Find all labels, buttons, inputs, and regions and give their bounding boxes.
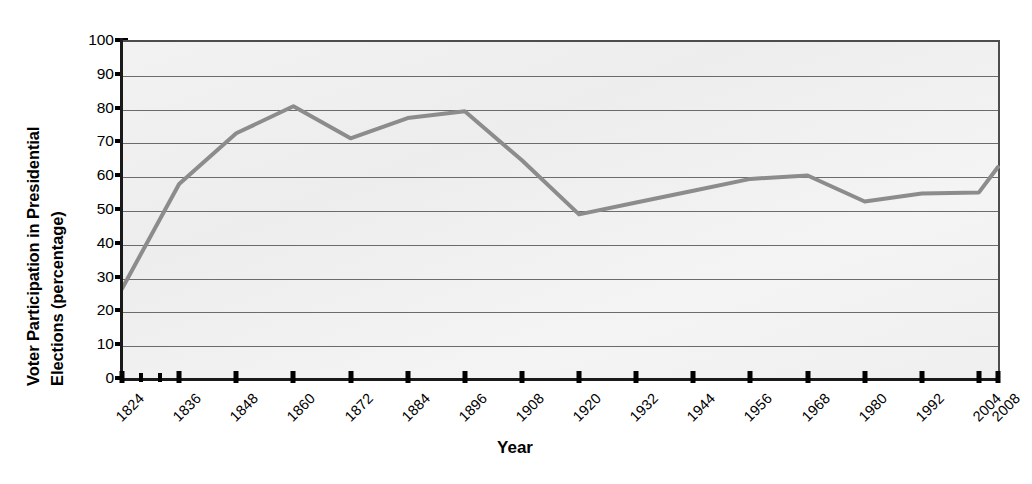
x-axis-tick <box>862 371 867 383</box>
y-axis-tick-label: 0 <box>74 370 114 386</box>
y-axis-line <box>120 38 123 380</box>
x-axis-tick <box>519 371 524 383</box>
x-axis-tick-label: 1956 <box>741 390 776 425</box>
x-axis-tick <box>348 371 353 383</box>
y-axis-tick-label: 40 <box>74 235 114 251</box>
x-axis-tick <box>634 371 639 383</box>
y-axis-tick-label: 60 <box>74 167 114 183</box>
x-axis-tick <box>577 371 582 383</box>
y-axis-tick-label: 80 <box>74 100 114 116</box>
x-axis-tick-label: 1836 <box>170 390 205 425</box>
x-axis-tick <box>805 371 810 383</box>
x-axis-tick <box>691 371 696 383</box>
y-axis-tick-label: 30 <box>74 269 114 285</box>
x-axis-tick-label: 1920 <box>570 390 605 425</box>
x-axis-tick-label: 1908 <box>513 390 548 425</box>
y-axis-tick-label: 20 <box>74 303 114 319</box>
x-axis-tick-label: 1980 <box>855 390 890 425</box>
x-axis-tick-label: 1848 <box>227 390 262 425</box>
x-axis-tick-label: 1896 <box>455 390 490 425</box>
y-axis-title-line-1: Voter Participation in Presidential <box>24 127 43 386</box>
x-axis-tick <box>291 371 296 383</box>
x-axis-tick-label: 1992 <box>912 390 947 425</box>
plot-area <box>122 40 1000 380</box>
line-series-voter-participation <box>122 42 998 380</box>
chart-figure: Voter Participation in Presidential Elec… <box>0 0 1032 484</box>
y-axis-tick-label: 10 <box>74 336 114 352</box>
x-axis-minor-tick <box>139 373 143 382</box>
x-axis-tick-label: 1968 <box>798 390 833 425</box>
x-axis-tick <box>996 371 1001 383</box>
x-axis-minor-tick <box>158 373 162 382</box>
y-axis-tick-label: 50 <box>74 201 114 217</box>
series-line <box>122 106 998 289</box>
x-axis-tick <box>976 371 981 383</box>
x-axis-tick <box>919 371 924 383</box>
y-axis-title-line-2: Elections (percentage) <box>48 211 67 386</box>
x-axis-tick <box>405 371 410 383</box>
x-axis-tick-label: 1860 <box>284 390 319 425</box>
x-axis-title: Year <box>455 438 575 458</box>
x-axis-tick-label: 1872 <box>341 390 376 425</box>
y-axis-tick-label: 70 <box>74 134 114 150</box>
x-axis-tick-label: 1932 <box>627 390 662 425</box>
x-axis-line <box>120 378 1000 381</box>
x-axis-tick <box>748 371 753 383</box>
x-axis-tick <box>234 371 239 383</box>
x-axis-tick-label: 1884 <box>398 390 433 425</box>
y-axis-tick-label: 100 <box>74 32 114 48</box>
x-axis-tick <box>462 371 467 383</box>
x-axis-tick-label: 1944 <box>684 390 719 425</box>
x-axis-tick <box>177 371 182 383</box>
x-axis-tick <box>120 371 125 383</box>
x-axis-tick-label: 1824 <box>113 390 148 425</box>
y-axis-tick-labels: 0102030405060708090100 <box>74 40 114 378</box>
y-axis-tick-label: 90 <box>74 66 114 82</box>
